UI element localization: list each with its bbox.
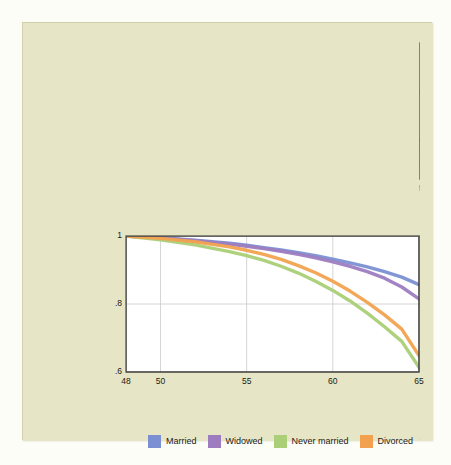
y-tick-label: .8	[100, 298, 122, 308]
x-tick-label: 50	[148, 376, 172, 386]
x-tick-label: 48	[114, 376, 138, 386]
legend-label: Divorced	[378, 436, 414, 446]
x-tick-label: 65	[407, 376, 431, 386]
legend-item: Married	[148, 435, 197, 448]
figure-panel: (a) Men Probability of survival Age in y…	[22, 22, 432, 440]
legend-item: Widowed	[208, 435, 263, 448]
legend-swatch	[148, 435, 161, 448]
legend-label: Never married	[292, 436, 349, 446]
legend-label: Married	[166, 436, 197, 446]
legend-label: Widowed	[226, 436, 263, 446]
x-tick-label: 55	[235, 376, 259, 386]
y-tick-label: .6	[100, 366, 122, 376]
chart-women: (b) Women Probability of survival Age in…	[23, 23, 431, 439]
plot-area-women	[23, 23, 433, 441]
legend-swatch	[360, 435, 373, 448]
legend-item: Never married	[274, 435, 349, 448]
chart-legend: MarriedWidowedNever marriedDivorced	[148, 432, 413, 450]
figure-root: (a) Men Probability of survival Age in y…	[0, 0, 451, 465]
x-tick-label: 60	[321, 376, 345, 386]
legend-item: Divorced	[360, 435, 414, 448]
legend-swatch	[208, 435, 221, 448]
legend-swatch	[274, 435, 287, 448]
y-tick-label: 1	[100, 230, 122, 240]
